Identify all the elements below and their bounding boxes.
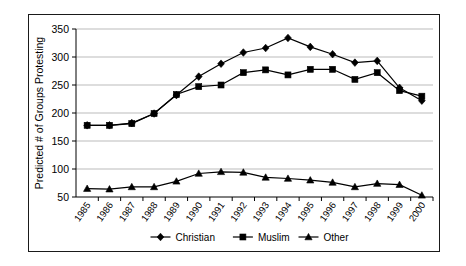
x-tick-label-2000: 2000 <box>406 200 427 224</box>
datapoint-muslim-1994 <box>285 72 291 78</box>
legend-item-muslim[interactable]: Muslim <box>233 232 290 243</box>
datapoint-other-2000 <box>418 192 425 198</box>
datapoint-muslim-1991 <box>218 82 224 88</box>
y-tick-label-250: 250 <box>51 79 69 91</box>
x-tick-label-1990: 1990 <box>183 200 204 224</box>
chart-svg: 5010015020025030035019851986198719881989… <box>29 15 439 251</box>
legend-label-muslim: Muslim <box>258 232 290 243</box>
x-tick-label-1998: 1998 <box>362 200 383 224</box>
chart-frame: 5010015020025030035019851986198719881989… <box>28 14 440 252</box>
datapoint-muslim-1987 <box>129 121 135 127</box>
y-tick-label-150: 150 <box>51 135 69 147</box>
legend-label-other: Other <box>324 232 350 243</box>
series-line-other <box>87 172 422 196</box>
x-tick-label-1995: 1995 <box>295 200 316 224</box>
series-line-christian <box>87 38 422 125</box>
y-tick-label-350: 350 <box>51 23 69 35</box>
x-tick-label-1987: 1987 <box>116 200 137 224</box>
y-tick-label-100: 100 <box>51 163 69 175</box>
series-line-muslim <box>87 69 422 125</box>
x-tick-label-1993: 1993 <box>250 200 271 224</box>
legend-label-christian: Christian <box>176 232 215 243</box>
datapoint-muslim-1988 <box>151 111 157 117</box>
datapoint-christian-1994 <box>285 34 292 42</box>
datapoint-muslim-1993 <box>263 67 269 73</box>
x-tick-label-1985: 1985 <box>72 200 93 224</box>
datapoint-christian-1991 <box>218 60 225 68</box>
datapoint-christian-1995 <box>307 43 314 51</box>
y-tick-label-50: 50 <box>57 191 69 203</box>
datapoint-muslim-1995 <box>307 66 313 72</box>
datapoint-muslim-1985 <box>84 122 90 128</box>
legend-marker-muslim <box>240 234 246 240</box>
legend-item-other[interactable]: Other <box>299 232 350 243</box>
x-tick-label-1997: 1997 <box>339 200 360 224</box>
x-tick-label-1996: 1996 <box>317 200 338 224</box>
datapoint-muslim-1998 <box>374 70 380 76</box>
datapoint-muslim-1989 <box>173 92 179 98</box>
y-tick-label-200: 200 <box>51 107 69 119</box>
x-tick-label-1992: 1992 <box>228 200 249 224</box>
y-axis-title: Predicted # of Groups Protesting <box>33 37 45 189</box>
datapoint-muslim-1999 <box>397 88 403 94</box>
datapoint-muslim-2000 <box>419 93 425 99</box>
datapoint-muslim-1996 <box>330 66 336 72</box>
datapoint-christian-1997 <box>352 59 359 67</box>
legend-item-christian[interactable]: Christian <box>151 232 215 243</box>
datapoint-christian-1993 <box>262 44 269 52</box>
datapoint-muslim-1997 <box>352 76 358 82</box>
x-tick-label-1994: 1994 <box>272 200 293 224</box>
datapoint-muslim-1986 <box>106 122 112 128</box>
y-tick-label-300: 300 <box>51 51 69 63</box>
datapoint-christian-1992 <box>240 49 247 57</box>
x-tick-label-1989: 1989 <box>161 200 182 224</box>
legend-marker-christian <box>157 233 164 241</box>
x-tick-label-1999: 1999 <box>384 200 405 224</box>
datapoint-muslim-1990 <box>196 84 202 90</box>
datapoint-muslim-1992 <box>240 70 246 76</box>
x-tick-label-1991: 1991 <box>206 200 227 224</box>
chart-figure: 5010015020025030035019851986198719881989… <box>0 0 466 266</box>
x-tick-label-1988: 1988 <box>139 200 160 224</box>
x-tick-label-1986: 1986 <box>94 200 115 224</box>
